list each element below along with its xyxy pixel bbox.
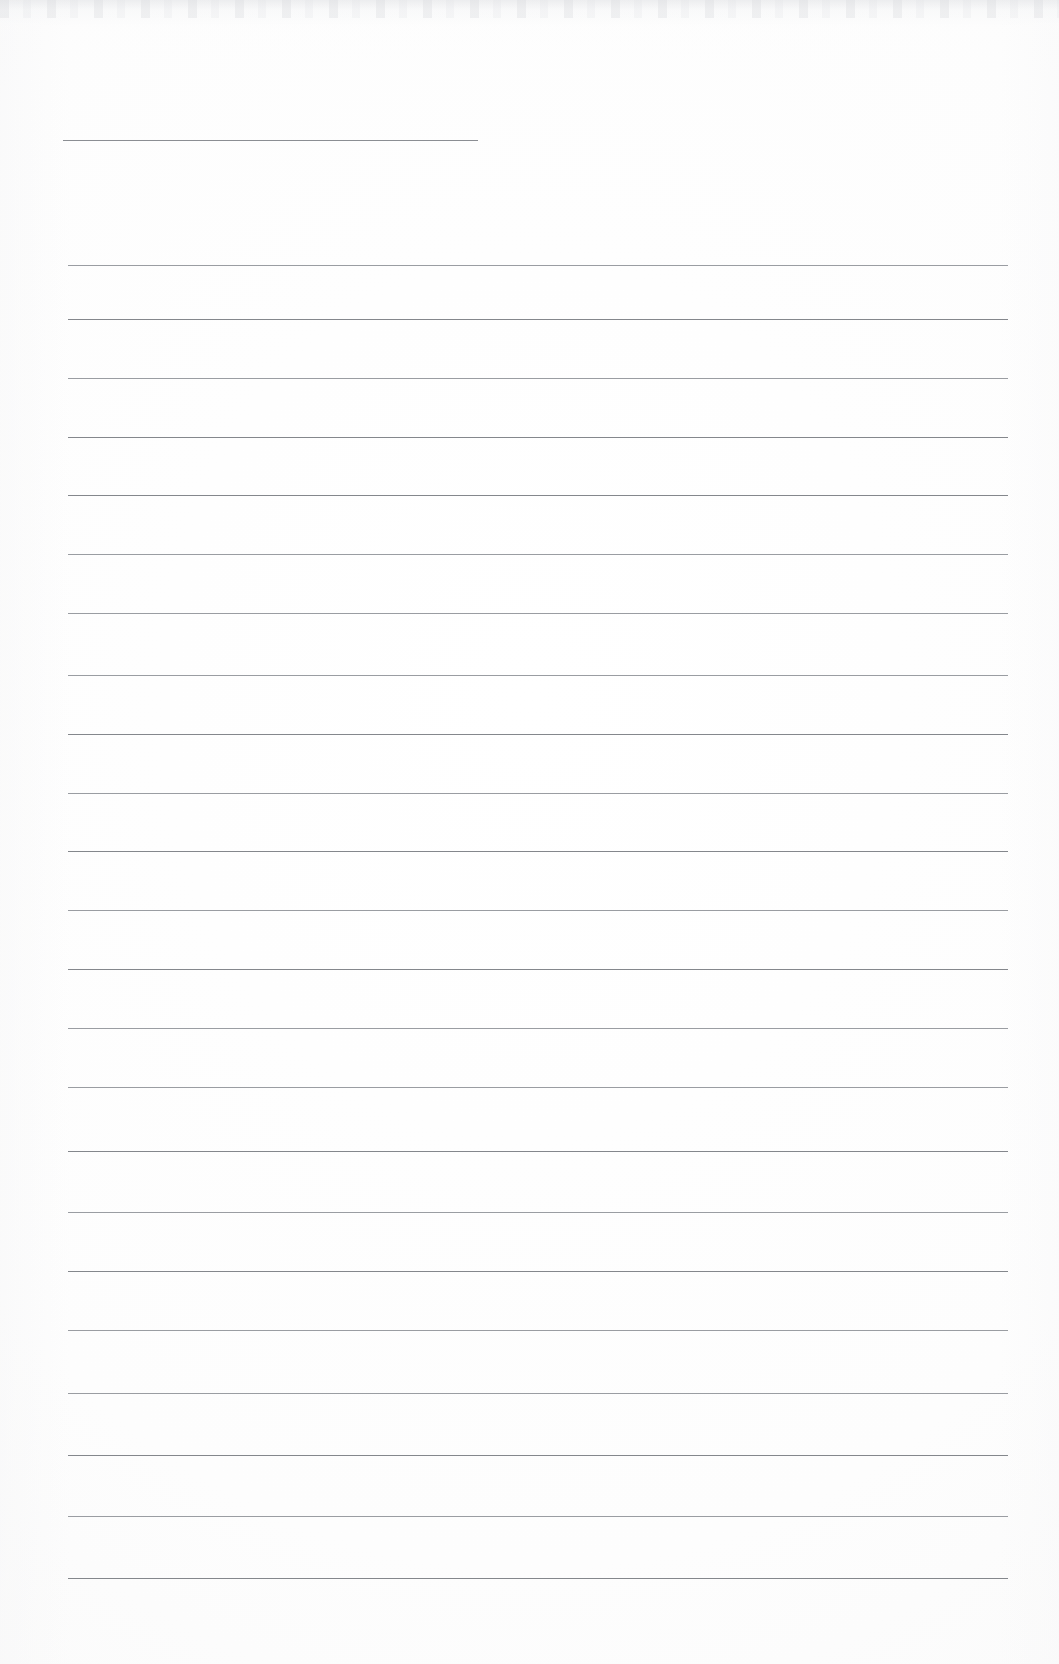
scanned-page xyxy=(0,0,1059,1664)
ruled-line xyxy=(68,495,1008,496)
ruled-line xyxy=(68,1455,1008,1456)
ruled-line xyxy=(68,910,1008,911)
scan-edge-artifact xyxy=(0,0,1059,18)
ruled-line xyxy=(68,1578,1008,1579)
ruled-line xyxy=(68,1151,1008,1152)
ruled-line xyxy=(68,1271,1008,1272)
ruled-line xyxy=(68,734,1008,735)
ruled-line xyxy=(68,851,1008,852)
ruled-line xyxy=(68,1087,1008,1088)
ruled-line xyxy=(68,675,1008,676)
ruled-line xyxy=(68,437,1008,438)
ruled-line xyxy=(68,378,1008,379)
ruled-line xyxy=(68,265,1008,266)
ruled-line xyxy=(68,613,1008,614)
ruled-line xyxy=(68,1516,1008,1517)
ruled-line xyxy=(68,1028,1008,1029)
ruled-line xyxy=(68,793,1008,794)
paper-surface xyxy=(0,0,1059,1664)
ruled-line xyxy=(68,554,1008,555)
ruled-line xyxy=(68,1393,1008,1394)
header-rule xyxy=(63,140,478,141)
ruled-line xyxy=(68,969,1008,970)
ruled-line xyxy=(68,319,1008,320)
ruled-line xyxy=(68,1330,1008,1331)
ruled-line xyxy=(68,1212,1008,1213)
